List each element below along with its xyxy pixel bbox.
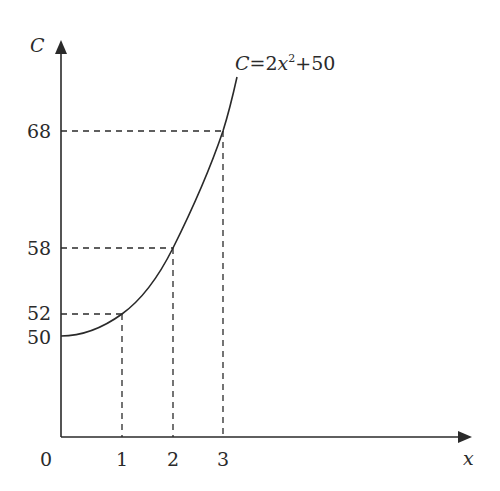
curve-equation: C=2x2+50 [235,52,335,74]
x-axis-label: x [463,447,474,469]
y-tick-68: 68 [27,120,51,142]
y-tick-50: 50 [27,326,51,348]
y-tick-58: 58 [27,237,51,259]
y-axis-label: C [30,34,45,56]
x-axis-arrow-icon [458,431,472,443]
eq-coef: 2 [265,52,277,74]
y-tick-52: 52 [27,302,51,324]
x-tick-2: 2 [167,448,179,470]
cost-function-diagram: C x 0 1 2 3 68 58 52 50 C=2x2+50 [0,0,500,491]
eq-var: x [278,52,289,74]
eq-rest: +50 [295,52,335,74]
eq-lhs: C [235,52,250,74]
y-axis-arrow-icon [55,40,67,54]
cost-curve [61,77,237,336]
x-tick-3: 3 [217,448,229,470]
eq-exp: 2 [288,52,295,65]
origin-label: 0 [40,448,52,470]
x-tick-1: 1 [116,448,128,470]
eq-equals: = [250,52,266,74]
